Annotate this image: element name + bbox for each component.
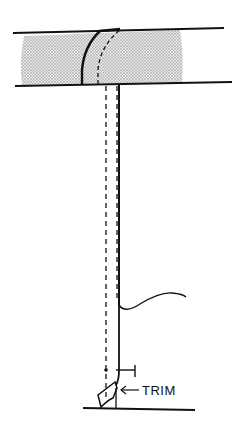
ground-line — [83, 408, 195, 410]
point-marker — [104, 368, 108, 372]
shaded-band — [21, 30, 183, 85]
diagram-canvas — [0, 0, 244, 427]
trimmed-strip — [98, 382, 117, 407]
vertical-member-lower — [116, 305, 119, 385]
trim-label: TRIM — [142, 384, 176, 397]
wavy-line — [119, 293, 186, 309]
